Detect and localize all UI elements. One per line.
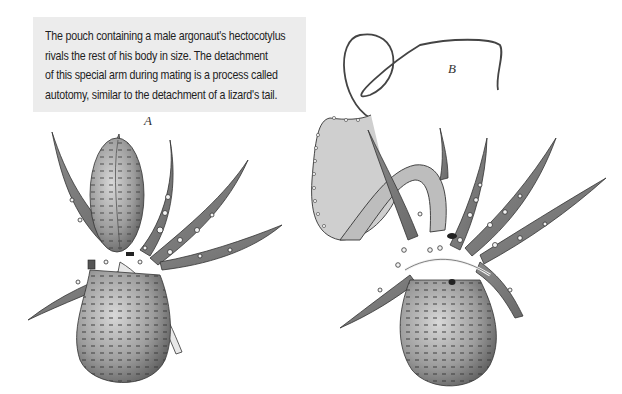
octopus-b: [312, 34, 606, 386]
octopus-a: [28, 132, 282, 383]
octopus-illustrations: [0, 0, 622, 394]
